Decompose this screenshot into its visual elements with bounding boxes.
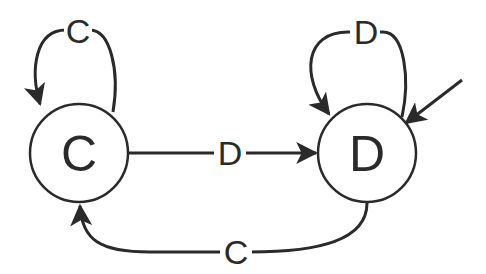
transition-d-to-c-label: C xyxy=(224,233,249,271)
state-c: C xyxy=(30,104,128,202)
self-loop-d-label: D xyxy=(354,13,379,51)
state-d-label: D xyxy=(349,126,385,182)
state-d: D xyxy=(318,104,416,202)
state-diagram: C D D C C D xyxy=(0,0,486,274)
transition-c-to-d-label: D xyxy=(218,134,243,172)
self-loop-c-label: C xyxy=(66,12,91,50)
initial-state-arrow xyxy=(406,80,462,123)
state-c-label: C xyxy=(61,126,97,182)
